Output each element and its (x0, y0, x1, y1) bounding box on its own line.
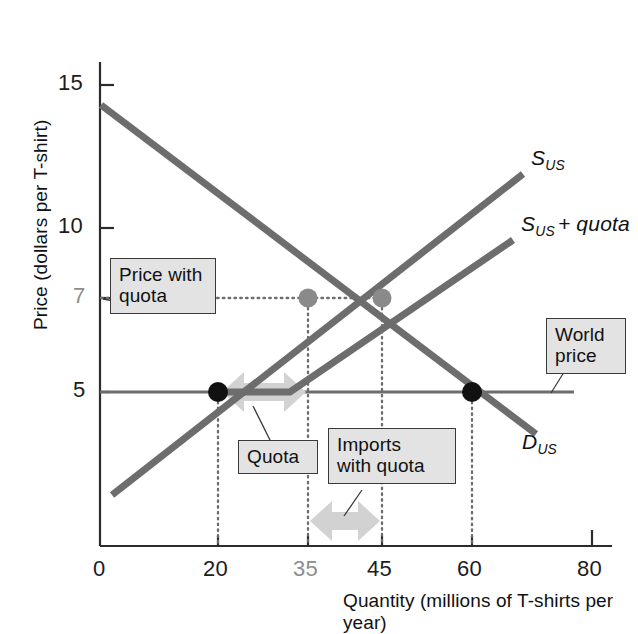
curve-label-sus-letter: S (531, 146, 545, 169)
x-tick-label-45: 45 (367, 556, 392, 582)
curve-label-sus-subscript: US (545, 157, 565, 173)
curve-label-susq-letter: S (521, 212, 535, 235)
curve-label-sus: SUS (531, 146, 565, 173)
y-tick-label-7: 7 (73, 283, 85, 309)
x-tick-label-0: 0 (93, 556, 105, 582)
marker-demand-at-world-price (462, 382, 482, 402)
callout-quota: Quota (238, 440, 318, 474)
marker-equilibrium-with-quota (373, 289, 392, 308)
supply-plus-quota-curve (218, 240, 513, 392)
callout-world-price: World price (546, 318, 626, 374)
marker-domestic-supply-at-quota-price (299, 289, 318, 308)
x-tick-label-20: 20 (203, 556, 228, 582)
imports-with-quota-arrow (310, 501, 380, 541)
curve-label-dus: DUS (522, 430, 557, 457)
callout-price-with-quota: Price with quota (110, 258, 216, 314)
x-tick-label-80: 80 (577, 556, 602, 582)
y-tick-label-15: 15 (58, 70, 83, 96)
leader-quota (253, 406, 272, 444)
curve-label-susq-suffix: + quota (555, 212, 630, 235)
curve-label-dus-letter: D (522, 430, 537, 453)
y-axis-title: Price (dollars per T-shirt) (30, 120, 52, 330)
x-tick-label-35: 35 (293, 556, 318, 582)
curve-label-dus-subscript: US (537, 441, 557, 457)
callout-imports-with-quota: Imports with quota (328, 428, 456, 484)
y-tick-label-10: 10 (58, 213, 83, 239)
x-tick-label-60: 60 (457, 556, 482, 582)
guide-lines-group (101, 298, 472, 544)
y-tick-label-5: 5 (73, 377, 85, 403)
curve-label-sus-plus-quota: SUS+ quota (521, 212, 630, 239)
x-axis-title: Quantity (millions of T-shirts per year) (343, 590, 638, 634)
marker-supply-at-world-price (208, 382, 228, 402)
curve-label-susq-subscript: US (535, 223, 555, 239)
